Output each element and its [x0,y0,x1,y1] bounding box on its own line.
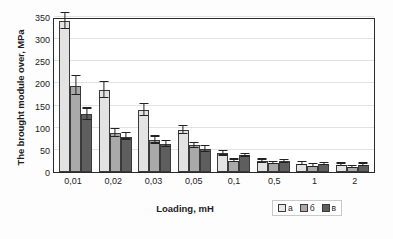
error-bar-cap [150,135,159,136]
bar-slot [228,19,239,172]
error-bar-cap [359,162,368,163]
y-tick-label: 0 [24,168,50,178]
bar-group [135,19,175,172]
bar-slot [178,19,189,172]
bar-slot [268,19,279,172]
bar-groups [54,19,374,172]
bar-slot [279,19,290,172]
error-bar-cap [111,128,120,129]
error-bar-cap [161,140,170,141]
error-bar-cap [201,145,210,146]
x-tick-label: 0,5 [254,176,294,186]
bar-а-0,1[interactable] [217,153,228,172]
error-bar-cap [60,28,69,29]
error-bar-cap [319,164,328,165]
error-bar-cap [258,158,267,159]
error-bar-cap [229,161,238,162]
error-bar-cap [111,136,120,137]
error-bar-cap [161,146,170,147]
bar-б-0,03[interactable] [149,140,160,172]
bar-slot [149,19,160,172]
bar-б-0,05[interactable] [189,145,200,172]
x-tick-label: 0,1 [214,176,254,186]
x-tick-label: 0,02 [93,176,133,186]
bar-а-0,01[interactable] [59,21,70,172]
bar-slot [239,19,250,172]
y-tick-label: 200 [24,79,50,89]
bar-б-0,02[interactable] [110,133,121,172]
error-bar-cap [139,103,148,104]
bar-slot [160,19,171,172]
bar-group [214,19,254,172]
error-bar-cap [359,165,368,166]
bar-slot [358,19,369,172]
bar-б-0,1[interactable] [228,161,239,172]
error-bar-cap [218,150,227,151]
error-bar [104,82,105,98]
bar-slot [110,19,121,172]
legend-label: в [332,203,337,213]
legend-item-в[interactable]: в [322,203,337,213]
bar-в-0,5[interactable] [279,161,290,172]
bar-slot [217,19,228,172]
bar-а-0,05[interactable] [178,130,189,172]
bar-slot [307,19,318,172]
y-tick-label: 50 [24,146,50,156]
y-tick-label: 100 [24,124,50,134]
error-bar-cap [179,125,188,126]
bar-в-0,03[interactable] [160,144,171,172]
bar-в-0,01[interactable] [81,114,92,172]
bar-slot [200,19,211,172]
error-bar-cap [100,97,109,98]
bar-slot [81,19,92,172]
legend-item-а[interactable]: а [278,203,293,213]
bar-slot [347,19,358,172]
bar-slot [121,19,132,172]
bar-а-0,02[interactable] [99,90,110,172]
y-tick-label: 250 [24,57,50,67]
bar-slot [138,19,149,172]
x-axis-title: Loading, mH [90,203,280,214]
error-bar-cap [348,167,357,168]
bar-group [96,19,136,172]
bar-group [175,19,215,172]
error-bar-cap [308,163,317,164]
error-bar-cap [280,159,289,160]
bar-в-0,02[interactable] [121,137,132,172]
bar-group [333,19,373,172]
y-tick-label: 350 [24,13,50,23]
error-bar-cap [122,132,131,133]
legend-item-б[interactable]: б [300,203,315,213]
bar-а-0,03[interactable] [138,110,149,172]
bar-в-0,1[interactable] [239,155,250,172]
legend-label: а [288,203,293,213]
x-tick-label: 0,03 [134,176,174,186]
error-bar-cap [337,165,346,166]
error-bar-cap [258,162,267,163]
error-bar-cap [218,154,227,155]
bar-slot [318,19,329,172]
error-bar-cap [308,166,317,167]
error-bar-cap [240,155,249,156]
bar-slot [59,19,70,172]
gridline [54,16,374,17]
bar-slot [336,19,347,172]
bar-в-0,05[interactable] [200,149,211,172]
error-bar-cap [71,94,80,95]
bar-б-0,01[interactable] [70,86,81,172]
y-tick-label: 300 [24,35,50,45]
bar-slot [70,19,81,172]
bar-slot [296,19,307,172]
plot-area [53,18,375,173]
legend-swatch-icon [300,204,308,212]
error-bar-cap [229,158,238,159]
error-bar-cap [179,133,188,134]
error-bar-cap [139,115,148,116]
error-bar-cap [60,12,69,13]
x-tick-label: 0,01 [53,176,93,186]
error-bar [64,13,65,29]
chart-legend: абв [272,200,342,216]
error-bar-cap [337,162,346,163]
error-bar-cap [100,81,109,82]
bar-slot [257,19,268,172]
